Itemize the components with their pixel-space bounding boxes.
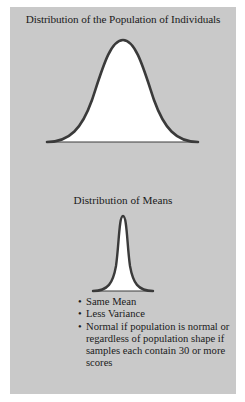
bullet-icon: • bbox=[78, 308, 82, 320]
list-item-normality-condition: • Normal if population is normal or rega… bbox=[78, 321, 238, 370]
means-distribution-title: Distribution of Means bbox=[10, 194, 236, 206]
means-distribution-curve bbox=[93, 216, 153, 291]
list-item-same-mean: • Same Mean bbox=[78, 296, 238, 308]
bullet-text: Normal if population is normal or regard… bbox=[86, 321, 229, 369]
bullet-text: Less Variance bbox=[86, 308, 145, 319]
bullet-icon: • bbox=[78, 321, 82, 333]
list-item-less-variance: • Less Variance bbox=[78, 308, 238, 320]
bullet-icon: • bbox=[78, 296, 82, 308]
population-distribution-curve bbox=[47, 40, 198, 142]
means-properties-list: • Same Mean • Less Variance • Normal if … bbox=[78, 296, 238, 370]
bullet-text: Same Mean bbox=[86, 296, 136, 307]
